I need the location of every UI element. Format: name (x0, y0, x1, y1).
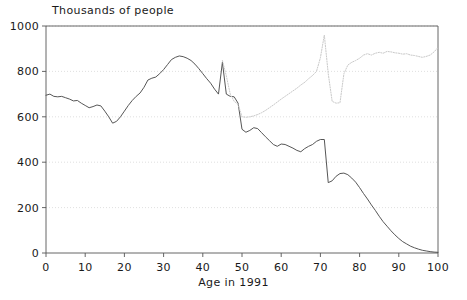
x-tick-label-100: 100 (418, 261, 458, 274)
x-axis-title: Age in 1991 (0, 276, 467, 289)
x-tick-label-50: 50 (222, 261, 262, 274)
y-tick-label-600: 600 (0, 110, 39, 123)
x-tick-label-10: 10 (65, 261, 105, 274)
series-line-0 (46, 56, 438, 252)
axis-tick-group (42, 26, 438, 257)
y-tick-label-1000: 1000 (0, 20, 39, 33)
plot-frame (46, 26, 438, 253)
series-line-1 (222, 35, 438, 117)
chart-root: Thousands of people 02004006008001000 01… (0, 0, 467, 300)
x-tick-label-90: 90 (379, 261, 419, 274)
y-tick-label-200: 200 (0, 201, 39, 214)
x-tick-label-30: 30 (144, 261, 184, 274)
y-tick-label-800: 800 (0, 65, 39, 78)
y-tick-label-400: 400 (0, 156, 39, 169)
x-tick-label-70: 70 (300, 261, 340, 274)
x-tick-label-40: 40 (183, 261, 223, 274)
data-series-group (46, 35, 438, 252)
x-tick-label-20: 20 (104, 261, 144, 274)
chart-plot-svg (0, 0, 467, 300)
y-tick-label-0: 0 (0, 247, 39, 260)
x-tick-label-80: 80 (340, 261, 380, 274)
x-tick-label-0: 0 (26, 261, 66, 274)
x-tick-label-60: 60 (261, 261, 301, 274)
